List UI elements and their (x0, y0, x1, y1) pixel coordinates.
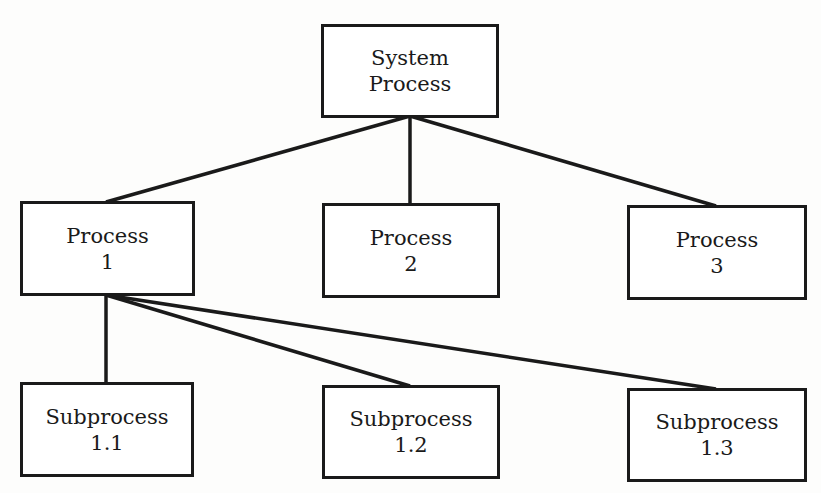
node-label-line2: 1 (101, 249, 114, 275)
node-subprocess-1-2: Subprocess 1.2 (322, 385, 500, 479)
node-label-line1: Subprocess (655, 409, 778, 435)
node-label-line2: 1.3 (700, 435, 733, 461)
node-label-line2: 3 (710, 253, 723, 279)
hierarchy-diagram: System Process Process 1 Process 2 Proce… (0, 0, 821, 493)
node-label-line2: 1.2 (394, 432, 427, 458)
node-subprocess-1-3: Subprocess 1.3 (627, 388, 807, 482)
node-label-line1: System (371, 45, 449, 71)
node-label-line2: 2 (404, 251, 417, 277)
node-label-line1: Process (676, 227, 759, 253)
node-label-line1: Subprocess (349, 406, 472, 432)
edge-root-process-1 (106, 116, 410, 202)
edge-process-1-sub-1-2 (106, 295, 410, 386)
node-process-2: Process 2 (322, 203, 500, 298)
node-process-1: Process 1 (20, 201, 195, 296)
node-label-line2: Process (369, 71, 452, 97)
edge-root-process-3 (410, 116, 716, 206)
node-subprocess-1-1: Subprocess 1.1 (20, 382, 194, 477)
node-label-line1: Process (66, 223, 149, 249)
node-process-3: Process 3 (627, 205, 807, 300)
node-system-process: System Process (321, 24, 499, 118)
node-label-line1: Subprocess (45, 404, 168, 430)
node-label-line2: 1.1 (90, 430, 123, 456)
edge-process-1-sub-1-3 (106, 295, 716, 389)
node-label-line1: Process (370, 225, 453, 251)
